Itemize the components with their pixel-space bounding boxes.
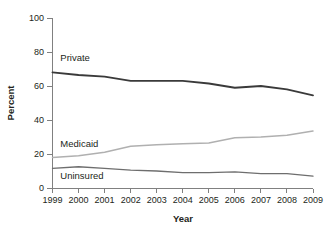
y-tick-label: 80 (34, 47, 44, 57)
x-tick-label: 1999 (42, 195, 62, 205)
y-tick-label: 100 (29, 13, 44, 23)
x-tick-label: 2005 (199, 195, 219, 205)
x-tick-label: 2008 (277, 195, 297, 205)
series-label-uninsured: Uninsured (60, 170, 103, 181)
y-tick-label: 60 (34, 81, 44, 91)
x-tick-label: 2006 (225, 195, 245, 205)
x-tick-label: 2007 (251, 195, 271, 205)
chart-container: 020406080100 Percent 1999200020012002200… (0, 0, 334, 229)
x-tick-label: 2009 (303, 195, 323, 205)
y-axis-title: Percent (5, 85, 16, 121)
x-axis-title: Year (173, 213, 193, 224)
y-tick-label: 40 (34, 115, 44, 125)
x-tick-label: 2001 (95, 195, 115, 205)
line-chart: 020406080100 Percent 1999200020012002200… (0, 0, 334, 229)
x-tick-label: 2003 (147, 195, 167, 205)
series-label-medicaid: Medicaid (60, 138, 98, 149)
y-tick-label: 20 (34, 149, 44, 159)
series-label-private: Private (60, 52, 90, 63)
y-tick-label: 0 (39, 183, 44, 193)
x-tick-label: 2002 (121, 195, 141, 205)
x-tick-label: 2000 (69, 195, 89, 205)
x-tick-label: 2004 (173, 195, 193, 205)
